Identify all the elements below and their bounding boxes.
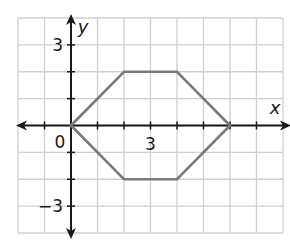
x-tick-label: 3	[145, 134, 156, 154]
coordinate-plane: 33−30xy	[0, 0, 290, 250]
y-tick-label: 3	[52, 35, 63, 55]
x-axis-label: x	[269, 97, 281, 118]
y-tick-label: −3	[38, 196, 63, 216]
y-axis-label: y	[77, 16, 89, 37]
origin-label: 0	[55, 132, 66, 152]
